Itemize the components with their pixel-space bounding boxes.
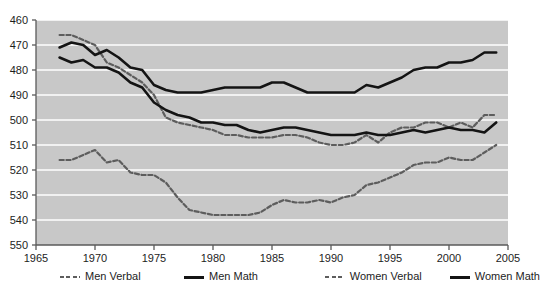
solid-line-swatch-icon bbox=[450, 272, 470, 282]
chart-legend: Men Verbal Men Math Women Verbal Women M… bbox=[0, 262, 540, 291]
y-axis-tick-label: 530 bbox=[10, 189, 28, 201]
x-axis-tick-label: 2000 bbox=[437, 252, 461, 262]
y-axis-tick-label: 520 bbox=[10, 164, 28, 176]
dashed-line-swatch-icon bbox=[60, 272, 80, 282]
x-axis-tick-label: 1995 bbox=[378, 252, 402, 262]
legend-item-women-verbal: Women Verbal bbox=[325, 271, 450, 282]
legend-item-men-math: Men Math bbox=[184, 271, 325, 282]
legend-item-label: Men Verbal bbox=[85, 271, 141, 282]
legend-item-women-math: Women Math bbox=[450, 271, 540, 282]
x-axis-tick-label: 1965 bbox=[24, 252, 48, 262]
legend-item-label: Women Verbal bbox=[350, 271, 422, 282]
sat-scores-line-chart: 5505405305205105004904804704601965197019… bbox=[0, 0, 540, 291]
y-axis-tick-label: 550 bbox=[10, 239, 28, 251]
legend-item-label: Women Math bbox=[475, 271, 540, 282]
x-axis-tick-label: 1970 bbox=[83, 252, 107, 262]
legend-item-label: Men Math bbox=[209, 271, 258, 282]
plot-background bbox=[36, 20, 508, 245]
y-axis-tick-label: 510 bbox=[10, 139, 28, 151]
plot-area-wrapper: 5505405305205105004904804704601965197019… bbox=[0, 0, 540, 262]
x-axis-tick-label: 2005 bbox=[496, 252, 520, 262]
dashed-line-swatch-icon bbox=[325, 272, 345, 282]
y-axis-tick-label: 460 bbox=[10, 14, 28, 26]
y-axis-tick-label: 480 bbox=[10, 64, 28, 76]
y-axis-tick-label: 490 bbox=[10, 89, 28, 101]
chart-canvas: 5505405305205105004904804704601965197019… bbox=[0, 0, 540, 262]
x-axis-tick-label: 1980 bbox=[201, 252, 225, 262]
legend-row: Men Verbal Men Math Women Verbal Women M… bbox=[0, 262, 540, 291]
x-axis-tick-label: 1985 bbox=[260, 252, 284, 262]
x-axis-tick-label: 1975 bbox=[142, 252, 166, 262]
x-axis-tick-label: 1990 bbox=[319, 252, 343, 262]
y-axis-tick-label: 500 bbox=[10, 114, 28, 126]
solid-line-swatch-icon bbox=[184, 272, 204, 282]
y-axis-tick-label: 470 bbox=[10, 39, 28, 51]
y-axis-tick-label: 540 bbox=[10, 214, 28, 226]
legend-item-men-verbal: Men Verbal bbox=[60, 271, 184, 282]
